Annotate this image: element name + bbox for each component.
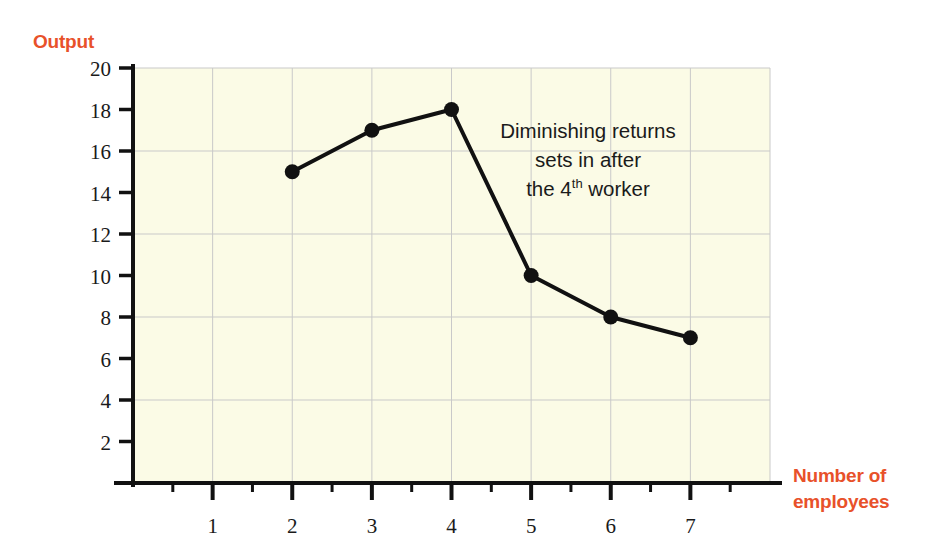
y-tick-label-2: 2 [101, 431, 112, 455]
annotation-ordinal-suffix: th [572, 176, 583, 191]
data-point-x7-y7 [683, 330, 698, 345]
data-point-x3-y17 [364, 123, 379, 138]
annotation-line-2: sets in after [535, 148, 641, 171]
data-point-x6-y8 [603, 310, 618, 325]
x-tick-label-6: 6 [606, 514, 617, 538]
annotation-line-1: Diminishing returns [500, 119, 675, 142]
x-tick-label-1: 1 [207, 514, 218, 538]
y-tick-label-12: 12 [90, 223, 111, 247]
data-point-x5-y10 [524, 268, 539, 283]
y-axis-title: Output [33, 31, 95, 52]
y-tick-label-14: 14 [90, 182, 112, 206]
x-tick-label-4: 4 [446, 514, 457, 538]
x-tick-label-7: 7 [685, 514, 696, 538]
annotation-line-3-pre: the 4 [526, 177, 572, 200]
x-tick-label-5: 5 [526, 514, 537, 538]
annotation-line-3-post: worker [583, 177, 650, 200]
x-axis-title-line2: employees [793, 491, 889, 512]
data-point-x2-y15 [285, 164, 300, 179]
annotation-line-3: the 4th worker [526, 176, 650, 200]
y-tick-label-6: 6 [101, 348, 112, 372]
y-tick-label-8: 8 [101, 306, 112, 330]
x-axis-title-line1: Number of [793, 465, 887, 486]
x-tick-label-2: 2 [287, 514, 298, 538]
data-point-x4-y18 [444, 102, 459, 117]
y-tick-label-18: 18 [90, 99, 111, 123]
y-tick-label-20: 20 [90, 57, 111, 81]
x-tick-label-3: 3 [367, 514, 378, 538]
y-tick-label-16: 16 [90, 140, 111, 164]
y-tick-label-4: 4 [101, 389, 112, 413]
y-tick-label-10: 10 [90, 265, 111, 289]
productivity-line-chart: Output Number of employees 2468101214161… [0, 0, 937, 560]
